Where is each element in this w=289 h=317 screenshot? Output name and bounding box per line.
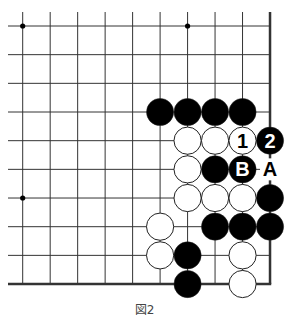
black-stone [201,156,228,183]
go-board: A12B [0,0,289,300]
black-stone [201,213,228,240]
white-stone [174,184,201,211]
stone-label-2: 2 [264,130,275,152]
white-stone [201,184,228,211]
black-stone [229,98,256,125]
figure-caption: 図2 [0,300,289,317]
white-stone [201,127,228,154]
black-stone [201,98,228,125]
black-stone [174,98,201,125]
black-stone [174,242,201,269]
white-stone [174,156,201,183]
star-point [185,23,190,28]
white-stone [174,127,201,154]
point-label-a: A [263,158,277,180]
star-point [20,195,25,200]
black-stone [256,184,283,211]
white-stone [229,242,256,269]
stone-label-1: 1 [237,130,248,152]
star-point [20,23,25,28]
white-stone [147,213,174,240]
black-stone [256,213,283,240]
white-stone [229,184,256,211]
black-stone [229,213,256,240]
black-stone [174,270,201,297]
white-stone [229,270,256,297]
stone-label-b: B [235,158,249,180]
white-stone [147,242,174,269]
black-stone [147,98,174,125]
